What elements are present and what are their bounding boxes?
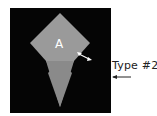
left-arrow-icon: [112, 75, 131, 79]
pointer-arrow-icon: [77, 52, 92, 61]
callout-label: Type #2: [112, 59, 157, 72]
shape-label: A: [55, 37, 63, 51]
kite-diagram: [0, 0, 157, 116]
